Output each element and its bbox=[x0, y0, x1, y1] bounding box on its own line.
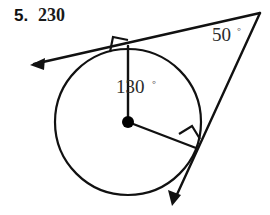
circle-center-dot bbox=[122, 116, 134, 128]
central-angle-degree-icon: ◦ bbox=[152, 75, 156, 89]
radius-to-lower-tangent bbox=[128, 122, 196, 148]
lower-right-angle-mark bbox=[179, 126, 200, 139]
problem-answer-value: 230 bbox=[38, 5, 65, 26]
geometry-figure: 5. 230 130 ◦ 50 ◦ bbox=[0, 0, 270, 215]
problem-number: 5. bbox=[14, 6, 28, 26]
central-angle-label: 130 bbox=[116, 76, 145, 97]
vertex-angle-label: 50 bbox=[212, 24, 231, 45]
diagram-canvas: 130 ◦ 50 ◦ bbox=[0, 0, 270, 215]
upper-tangent-arrowhead bbox=[30, 58, 45, 70]
vertex-angle-degree-icon: ◦ bbox=[237, 22, 241, 36]
